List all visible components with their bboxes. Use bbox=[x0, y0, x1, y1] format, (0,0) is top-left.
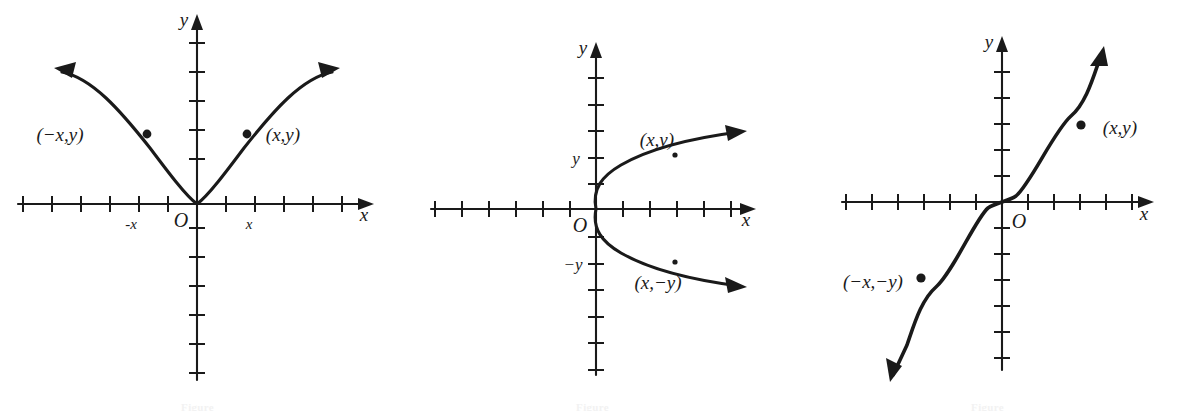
figure-even-symmetry: (−x,y) (x,y) -x x O x y Figure bbox=[0, 0, 395, 409]
chart-x-axis-symmetry: (x,y) (x,−y) y −y O x y bbox=[395, 0, 790, 409]
point-label-upper: (x,y) bbox=[640, 129, 674, 151]
y-axis-arrowhead bbox=[996, 36, 1008, 52]
y-axis-label: y bbox=[577, 37, 588, 58]
x-axis-label: x bbox=[359, 204, 369, 225]
data-point-upper bbox=[1076, 120, 1085, 129]
data-point-lower bbox=[672, 259, 677, 264]
tick-label-negative-y: −y bbox=[563, 255, 582, 274]
figure-origin-symmetry: (x,y) (−x,−y) O x y Figure bbox=[790, 0, 1185, 409]
figure-caption-1: Figure bbox=[0, 402, 395, 411]
point-label-upper: (x,y) bbox=[1103, 117, 1137, 139]
data-point-right bbox=[243, 130, 252, 139]
data-point-left bbox=[143, 130, 152, 139]
y-axis-arrowhead bbox=[191, 14, 203, 30]
curve-upper-arrowhead bbox=[1090, 46, 1108, 66]
y-axis-label: y bbox=[178, 9, 189, 30]
lower-branch-arrowhead bbox=[725, 277, 747, 293]
figure-x-axis-symmetry: (x,y) (x,−y) y −y O x y Figure bbox=[395, 0, 790, 409]
tick-label-negative-x: -x bbox=[125, 216, 137, 232]
y-axis-arrowhead bbox=[590, 42, 602, 58]
point-label-right: (x,y) bbox=[266, 124, 300, 146]
figure-caption-3: Figure bbox=[790, 402, 1185, 411]
point-label-left: (−x,y) bbox=[36, 124, 83, 146]
chart-even-symmetry: (−x,y) (x,y) -x x O x y bbox=[0, 0, 395, 409]
origin-label: O bbox=[174, 209, 188, 231]
y-axis-label: y bbox=[983, 31, 994, 52]
point-label-lower: (−x,−y) bbox=[843, 271, 903, 293]
data-point-upper bbox=[672, 152, 677, 157]
odd-function-curve bbox=[893, 58, 1100, 375]
tick-label-positive-x: x bbox=[245, 216, 253, 232]
x-axis-label: x bbox=[741, 209, 751, 230]
data-point-lower bbox=[916, 273, 925, 282]
origin-label: O bbox=[1012, 210, 1026, 232]
figure-caption-2: Figure bbox=[395, 402, 790, 411]
tick-label-positive-y: y bbox=[570, 149, 580, 168]
origin-label: O bbox=[573, 214, 587, 236]
chart-origin-symmetry: (x,y) (−x,−y) O x y bbox=[790, 0, 1185, 409]
point-label-lower: (x,−y) bbox=[634, 272, 681, 294]
upper-branch-arrowhead bbox=[725, 125, 747, 141]
x-axis-label: x bbox=[1139, 203, 1149, 224]
